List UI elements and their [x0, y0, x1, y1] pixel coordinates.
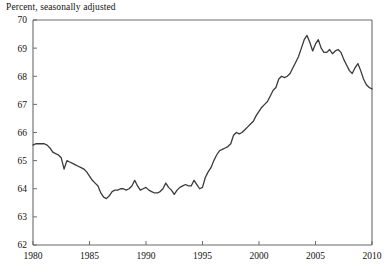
y-tick-label: 67	[18, 100, 28, 110]
data-series	[33, 35, 372, 198]
x-tick-label: 2010	[363, 251, 382, 261]
y-tick-label: 65	[18, 156, 28, 166]
x-tick-label: 2005	[306, 251, 325, 261]
y-tick-label: 62	[18, 240, 28, 250]
x-tick-label: 1995	[193, 251, 212, 261]
chart-container: Percent, seasonally adjusted 62636465666…	[0, 0, 390, 275]
x-tick-label: 1985	[80, 251, 99, 261]
line-chart-plot: 626364656667686970 198019851990199520002…	[0, 0, 390, 275]
y-tick-label: 68	[18, 72, 28, 82]
x-tick-label: 1990	[137, 251, 156, 261]
y-tick-label: 64	[18, 184, 28, 194]
series-line	[33, 35, 372, 198]
y-axis: 626364656667686970	[18, 15, 38, 250]
y-tick-label: 66	[18, 128, 28, 138]
y-tick-label: 63	[18, 212, 28, 222]
x-tick-label: 2000	[250, 251, 269, 261]
x-axis: 1980198519901995200020052010	[24, 241, 382, 261]
axis-lines	[33, 20, 372, 245]
y-tick-label: 70	[18, 15, 28, 25]
y-tick-label: 69	[18, 44, 28, 54]
x-tick-label: 1980	[24, 251, 43, 261]
